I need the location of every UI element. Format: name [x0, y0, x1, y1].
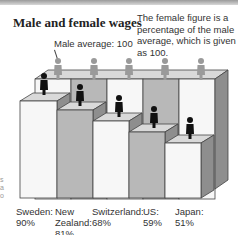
country-value: 81% — [55, 228, 95, 235]
bar-chart — [0, 0, 238, 235]
label-us: US: 59% — [143, 206, 162, 228]
country-value: 90% — [16, 217, 53, 228]
label-japan: Japan: 51% — [175, 206, 204, 228]
label-sweden: Sweden: 90% — [16, 206, 53, 228]
cropped-edge-text: sao — [0, 176, 4, 200]
country-name: New Zealand: — [55, 206, 95, 228]
country-value: 51% — [175, 217, 204, 228]
label-new-zealand: New Zealand: 81% — [55, 206, 95, 235]
label-switzerland: Switzerland: 68% — [92, 206, 144, 228]
country-name: US: — [143, 206, 162, 217]
country-value: 59% — [143, 217, 162, 228]
country-name: Sweden: — [16, 206, 53, 217]
country-name: Switzerland: — [92, 206, 144, 217]
country-value: 68% — [92, 217, 144, 228]
country-name: Japan: — [175, 206, 204, 217]
